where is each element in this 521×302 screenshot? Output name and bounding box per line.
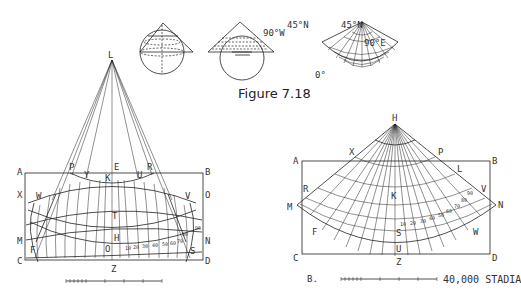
label-45n-right: 45°N (341, 20, 363, 30)
left-label-F: F (30, 245, 35, 255)
right-label-W: W (473, 227, 479, 237)
right-label-N: N (498, 200, 503, 210)
right-label-M: M (287, 202, 293, 212)
right-label-V: V (481, 184, 487, 194)
svg-text:60: 60 (446, 208, 452, 214)
svg-text:90: 90 (195, 225, 201, 231)
svg-text:80: 80 (461, 197, 467, 203)
left-label-Y: Y (84, 170, 90, 180)
right-label-B: B (492, 156, 497, 166)
left-label-E: E (114, 162, 119, 172)
right-label-K: K (391, 191, 397, 201)
right-label-F: F (312, 227, 317, 237)
svg-text:40: 40 (152, 242, 158, 248)
right-label-D: D (492, 253, 497, 263)
label-0-degree: 0° (315, 70, 326, 80)
left-apex-L: L (108, 50, 113, 60)
svg-text:20: 20 (133, 244, 139, 250)
panel-label-b: B. (307, 274, 318, 284)
left-label-C: C (17, 256, 22, 266)
left-label-N: N (205, 236, 210, 246)
left-label-R: R (147, 162, 153, 172)
svg-text:50: 50 (438, 212, 444, 218)
left-label-U: U (137, 170, 142, 180)
svg-text:80: 80 (182, 231, 188, 237)
left-label-S: S (190, 246, 195, 256)
right-label-P: P (438, 147, 444, 157)
svg-text:90: 90 (467, 190, 473, 196)
figure-caption: Figure 7.18 (238, 86, 311, 101)
left-label-K: K (105, 173, 111, 183)
label-90w: 90°W (263, 28, 285, 38)
left-label-B: B (205, 167, 210, 177)
svg-text:60: 60 (170, 240, 176, 246)
right-label-U: U (396, 244, 401, 254)
right-label-R: R (303, 184, 309, 194)
left-scale-bar (66, 279, 162, 283)
figure-7-18-diagram: 45°N 90°W 45°N 90°E 0° Figure 7.18 (0, 0, 521, 302)
svg-text:10: 10 (400, 221, 406, 227)
left-projection-panel (25, 60, 203, 262)
svg-text:30: 30 (142, 243, 148, 249)
left-label-X: X (17, 190, 23, 200)
right-label-S: S (396, 228, 401, 238)
svg-text:20: 20 (410, 220, 416, 226)
scale-label-stadia: 40,000 STADIA (443, 274, 521, 285)
right-label-L: L (457, 164, 462, 174)
right-label-Z: Z (396, 257, 402, 267)
left-label-A: A (17, 167, 23, 177)
left-label-M: M (17, 236, 23, 246)
svg-text:50: 50 (162, 241, 168, 247)
label-90e: 90°E (364, 38, 386, 48)
left-label-T: T (112, 211, 118, 221)
right-label-A: A (293, 156, 299, 166)
left-label-O: O (205, 190, 210, 200)
left-label-O-inner: O (105, 244, 110, 254)
left-label-W: W (36, 191, 42, 201)
cone-on-sphere-1 (140, 23, 193, 74)
left-label-H: H (114, 233, 119, 243)
left-label-P: P (69, 162, 75, 172)
right-scale-bar (341, 277, 437, 281)
svg-text:40: 40 (429, 215, 435, 221)
svg-text:10: 10 (125, 245, 131, 251)
right-label-X: X (349, 147, 355, 157)
right-apex-H: H (392, 113, 397, 123)
right-label-C: C (293, 253, 298, 263)
left-label-V: V (185, 191, 191, 201)
left-label-D: D (205, 256, 210, 266)
svg-text:70: 70 (177, 238, 183, 244)
svg-text:30: 30 (420, 218, 426, 224)
svg-text:70: 70 (454, 203, 460, 209)
left-label-Z: Z (111, 264, 117, 274)
label-45n-left: 45°N (287, 20, 309, 30)
